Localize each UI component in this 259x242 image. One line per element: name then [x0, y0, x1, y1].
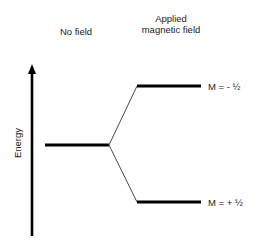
- split-connector-upper: [109, 86, 137, 145]
- applied-field-header: Applied magnetic field: [128, 13, 214, 35]
- applied-field-header-line1: Applied: [128, 13, 214, 24]
- split-connector-lower: [109, 145, 137, 202]
- upper-level-label: M = - ½: [208, 81, 240, 92]
- energy-axis-label: Energy: [12, 127, 23, 159]
- lower-level-label: M = + ½: [208, 197, 243, 208]
- no-field-header: No field: [40, 26, 112, 37]
- arrow-up-icon: [28, 64, 36, 74]
- applied-field-header-line2: magnetic field: [128, 24, 214, 35]
- zeeman-splitting-diagram: No field Applied magnetic field Energy M…: [0, 0, 259, 242]
